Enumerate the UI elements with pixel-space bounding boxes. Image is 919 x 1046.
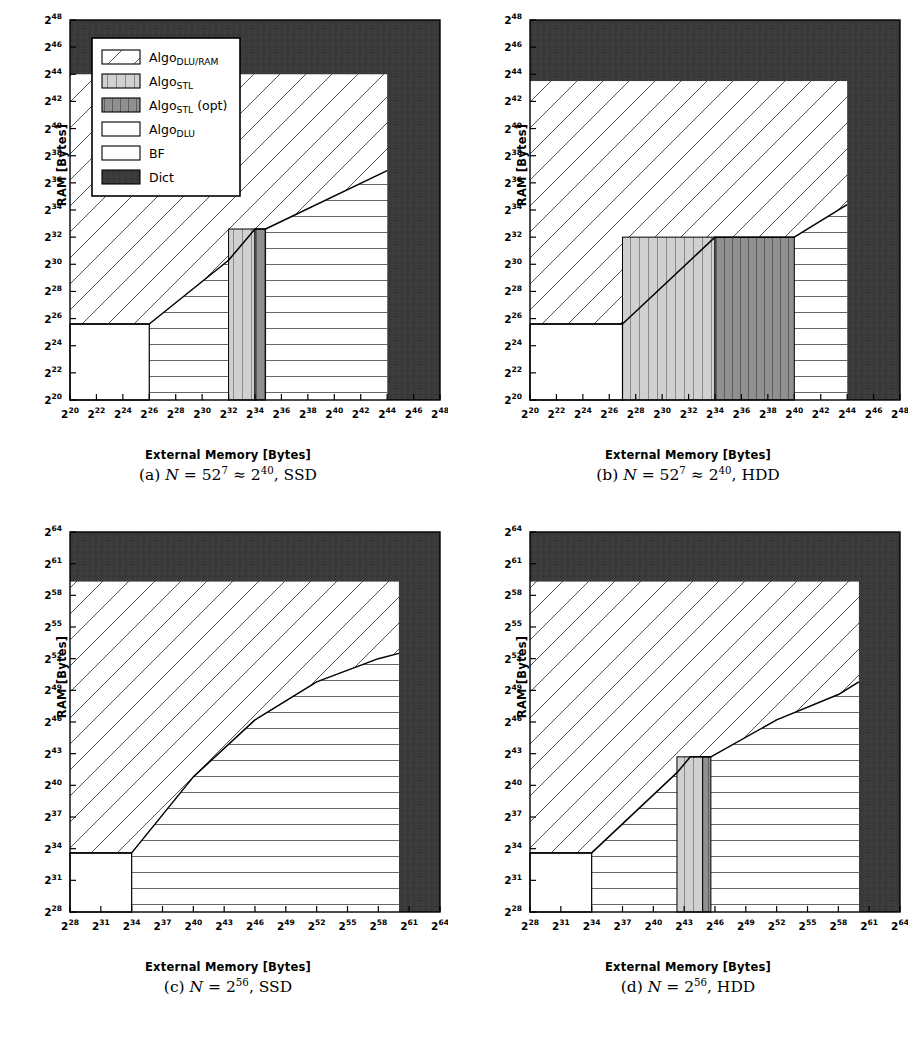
y-axis-label-b: RAM [Bytes] — [515, 105, 529, 225]
svg-text:240: 240 — [184, 918, 202, 932]
svg-text:228: 228 — [44, 904, 62, 918]
svg-text:248: 248 — [431, 406, 448, 420]
svg-text:228: 228 — [521, 918, 539, 932]
legend-swatch-algo_stl — [102, 74, 140, 88]
svg-text:264: 264 — [504, 524, 522, 538]
svg-text:231: 231 — [44, 873, 62, 887]
region-algo-stl — [677, 757, 703, 912]
svg-text:236: 236 — [273, 406, 291, 420]
caption-d-value: = 2 — [666, 978, 694, 996]
svg-text:224: 224 — [44, 338, 62, 352]
legend-label-dict: Dict — [149, 170, 174, 185]
svg-text:228: 228 — [61, 918, 79, 932]
svg-text:243: 243 — [504, 746, 522, 760]
svg-text:230: 230 — [504, 257, 522, 271]
legend: AlgoDLU/RAMAlgoSTLAlgoSTL (opt)AlgoDLUBF… — [92, 38, 240, 196]
svg-text:220: 220 — [61, 406, 79, 420]
caption-c-exp: 56 — [236, 977, 249, 988]
caption-b-exp: 7 — [679, 465, 686, 476]
caption-a-approx-exp: 40 — [261, 465, 274, 476]
svg-text:246: 246 — [405, 406, 423, 420]
region-algo-stl-opt — [703, 757, 711, 912]
svg-text:248: 248 — [891, 406, 908, 420]
svg-text:248: 248 — [504, 12, 522, 26]
svg-text:255: 255 — [339, 918, 357, 932]
caption-b-value: = 52 — [642, 466, 680, 484]
svg-text:249: 249 — [737, 918, 755, 932]
legend-swatch-bf — [102, 146, 140, 160]
region-algo-stl-opt — [715, 237, 794, 400]
svg-text:255: 255 — [799, 918, 817, 932]
svg-text:243: 243 — [215, 918, 233, 932]
svg-text:246: 246 — [44, 40, 62, 54]
svg-text:244: 244 — [44, 67, 62, 81]
caption-c-value: = 2 — [208, 978, 236, 996]
caption-b-approx-exp: 40 — [719, 465, 732, 476]
chart-panel-b: 2202222242262282302322342362382402422442… — [468, 8, 908, 478]
svg-text:252: 252 — [768, 918, 786, 932]
svg-text:226: 226 — [504, 311, 522, 325]
x-axis-label-d: External Memory [Bytes] — [468, 960, 908, 974]
chart-svg-a: 2202222242262282302322342362382402422442… — [8, 8, 448, 428]
svg-text:238: 238 — [299, 406, 317, 420]
svg-text:226: 226 — [600, 406, 618, 420]
svg-text:246: 246 — [246, 918, 264, 932]
chart-panel-a: 2202222242262282302322342362382402422442… — [8, 8, 448, 478]
chart-panel-d: 2282312342372402432462492522552582612642… — [468, 520, 908, 990]
svg-text:234: 234 — [123, 918, 141, 932]
caption-c: (c) N = 256, SSD — [8, 978, 448, 996]
svg-text:222: 222 — [44, 365, 62, 379]
caption-a-exp: 7 — [221, 465, 228, 476]
svg-text:261: 261 — [44, 556, 62, 570]
svg-text:232: 232 — [44, 230, 62, 244]
svg-text:234: 234 — [246, 406, 264, 420]
svg-text:228: 228 — [167, 406, 185, 420]
region-bf — [70, 324, 149, 400]
svg-text:246: 246 — [706, 918, 724, 932]
svg-text:248: 248 — [44, 12, 62, 26]
y-axis-label-c: RAM [Bytes] — [55, 617, 69, 737]
svg-text:244: 244 — [838, 406, 856, 420]
caption-b-device: , HDD — [732, 466, 780, 484]
y-axis-label-a: RAM [Bytes] — [55, 105, 69, 225]
svg-text:244: 244 — [378, 406, 396, 420]
svg-text:264: 264 — [44, 524, 62, 538]
svg-text:240: 240 — [504, 778, 522, 792]
legend-swatch-dict — [102, 170, 140, 184]
chart-panel-c: 2282312342372402432462492522552582612642… — [8, 520, 448, 990]
svg-text:261: 261 — [504, 556, 522, 570]
svg-text:264: 264 — [431, 918, 448, 932]
chart-svg-d: 2282312342372402432462492522552582612642… — [468, 520, 908, 940]
svg-text:242: 242 — [812, 406, 830, 420]
caption-d-n: N — [648, 978, 662, 996]
svg-text:220: 220 — [44, 392, 62, 406]
plot-area-c: 2282312342372402432462492522552582612642… — [8, 520, 448, 940]
svg-text:222: 222 — [548, 406, 566, 420]
chart-svg-c: 2282312342372402432462492522552582612642… — [8, 520, 448, 940]
svg-text:258: 258 — [369, 918, 387, 932]
svg-text:237: 237 — [614, 918, 632, 932]
svg-text:237: 237 — [154, 918, 172, 932]
caption-b-prefix: (b) — [596, 466, 618, 484]
plot-area-d: 2282312342372402432462492522552582612642… — [468, 520, 908, 940]
svg-text:238: 238 — [759, 406, 777, 420]
svg-text:234: 234 — [706, 406, 724, 420]
caption-b-approx: ≈ 2 — [691, 466, 719, 484]
legend-label-bf: BF — [149, 146, 165, 161]
svg-text:246: 246 — [865, 406, 883, 420]
svg-text:261: 261 — [400, 918, 418, 932]
plot-area-b: 2202222242262282302322342362382402422442… — [468, 8, 908, 428]
caption-c-device: , SSD — [249, 978, 292, 996]
svg-text:226: 226 — [140, 406, 158, 420]
caption-c-prefix: (c) — [164, 978, 185, 996]
svg-text:234: 234 — [583, 918, 601, 932]
svg-text:220: 220 — [504, 392, 522, 406]
svg-text:234: 234 — [44, 841, 62, 855]
svg-text:226: 226 — [44, 311, 62, 325]
caption-d-device: , HDD — [707, 978, 755, 996]
svg-text:244: 244 — [504, 67, 522, 81]
svg-text:249: 249 — [277, 918, 295, 932]
legend-swatch-algo_dlu_ram — [102, 50, 140, 64]
svg-text:252: 252 — [308, 918, 326, 932]
svg-text:230: 230 — [44, 257, 62, 271]
